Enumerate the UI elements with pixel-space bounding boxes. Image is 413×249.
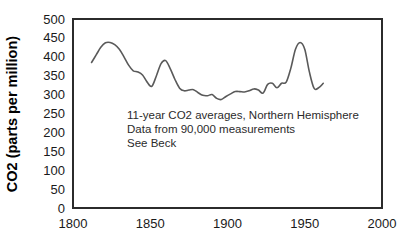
x-tick-label: 1800 <box>59 216 88 231</box>
y-tick-label: 250 <box>43 106 65 121</box>
y-tick-label: 350 <box>43 68 65 83</box>
x-tick-label: 1850 <box>136 216 165 231</box>
x-tick-label: 1900 <box>213 216 242 231</box>
y-tick-label: 50 <box>51 182 65 197</box>
y-tick-label: 500 <box>43 12 65 27</box>
x-tick-label: 2000 <box>368 216 397 231</box>
annotation-line: 11-year CO2 averages, Northern Hemispher… <box>127 109 359 121</box>
y-tick-label: 450 <box>43 30 65 45</box>
x-tick-label: 1950 <box>290 216 319 231</box>
y-tick-label: 100 <box>43 163 65 178</box>
annotation-line: Data from 90,000 measurements <box>127 123 295 135</box>
y-axis-title: CO2 (parts per million) <box>4 36 20 192</box>
y-tick-label: 200 <box>43 125 65 140</box>
chart-canvas: 050100150200250300350400450500 180018501… <box>0 0 413 249</box>
y-tick-label: 0 <box>58 201 65 216</box>
y-tick-label: 150 <box>43 144 65 159</box>
co2-chart: 050100150200250300350400450500 180018501… <box>0 0 413 249</box>
y-tick-label: 300 <box>43 87 65 102</box>
annotation-line: See Beck <box>127 137 176 149</box>
y-tick-label: 400 <box>43 49 65 64</box>
